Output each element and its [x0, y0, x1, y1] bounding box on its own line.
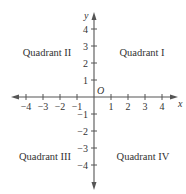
y-tick-label: −2	[77, 126, 88, 137]
y-axis-label: y	[83, 10, 89, 21]
y-axis-down-arrow-icon	[92, 182, 97, 190]
x-tick-label: 3	[143, 101, 148, 112]
x-tick-label: 1	[109, 101, 114, 112]
x-tick-label: 2	[126, 101, 131, 112]
x-axis-label: x	[177, 98, 183, 109]
y-tick-label: 2	[83, 58, 88, 69]
y-tick-label: 3	[83, 41, 88, 52]
origin-label: O	[97, 85, 104, 96]
y-tick-label: −4	[77, 160, 88, 171]
quadrant-3-label: Quadrant III	[19, 151, 72, 162]
x-tick-label: 4	[160, 101, 165, 112]
coordinate-plane-svg: x y −4 −3 −2 −1 1 2 3 4	[0, 0, 186, 194]
quadrant-1-label: Quadrant I	[119, 47, 165, 58]
x-tick-label: −4	[21, 101, 32, 112]
y-tick-label: −1	[77, 109, 88, 120]
x-axis-left-arrow-icon	[11, 95, 19, 100]
x-axis-tick-labels: −4 −3 −2 −1 1 2 3 4	[21, 101, 165, 112]
y-axis-up-arrow-icon	[92, 12, 97, 20]
coordinate-plane-diagram: x y −4 −3 −2 −1 1 2 3 4	[0, 0, 186, 194]
quadrant-4-label: Quadrant IV	[117, 151, 170, 162]
x-axis-right-arrow-icon	[170, 95, 178, 100]
y-tick-label: 4	[83, 24, 88, 35]
y-tick-label: −3	[77, 143, 88, 154]
x-tick-label: −3	[38, 101, 49, 112]
quadrant-2-label: Quadrant II	[23, 47, 72, 58]
y-tick-label: 1	[83, 75, 88, 86]
x-tick-label: −2	[55, 101, 66, 112]
